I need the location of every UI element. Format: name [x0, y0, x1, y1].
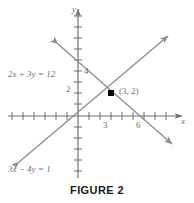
y-tick-label-2: 2	[66, 84, 71, 94]
coordinate-plane	[0, 0, 194, 183]
equation-label-ascending: 3x − 4y = 1	[8, 164, 51, 174]
line-descending-2x-3y-12	[58, 44, 172, 144]
x-tick-label-3: 3	[103, 120, 108, 130]
figure-caption: FIGURE 2	[0, 184, 194, 196]
y-tick-label-4: 4	[84, 66, 89, 76]
intersection-point-label: (3, 2)	[119, 86, 139, 96]
line-ascending-3x-4y-1	[19, 36, 168, 162]
x-tick-label-6: 6	[136, 120, 141, 130]
figure-container: 2x + 3y = 12 3x − 4y = 1 (3, 2) 3 6 4 2 …	[0, 0, 194, 203]
equation-label-descending: 2x + 3y = 12	[8, 69, 55, 79]
intersection-point-marker	[108, 90, 114, 96]
x-axis-label: x	[181, 116, 185, 126]
y-axis-label: y	[72, 4, 76, 14]
